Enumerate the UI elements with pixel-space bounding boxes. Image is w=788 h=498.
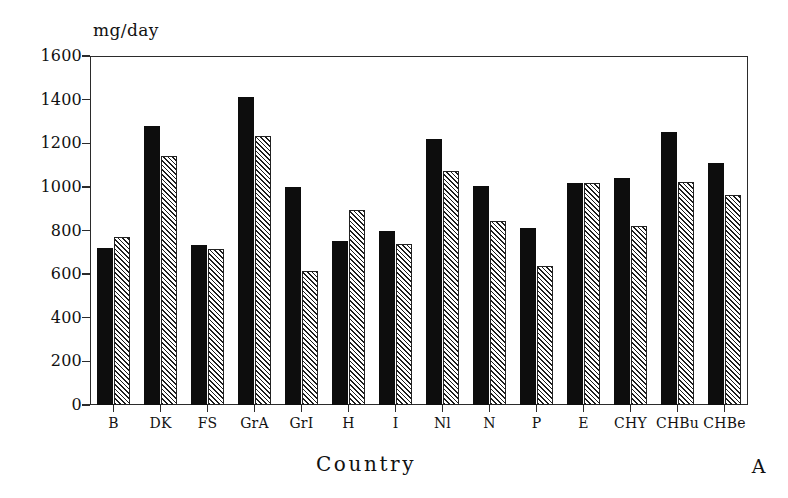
- y-tick-mark: [82, 273, 90, 274]
- y-tick-mark: [82, 143, 90, 144]
- bar-group: [654, 56, 701, 405]
- bars-layer: [90, 56, 748, 405]
- bar-group: [607, 56, 654, 405]
- bar-group: [560, 56, 607, 405]
- bar-CHBu-series-1: [661, 132, 677, 405]
- y-axis-unit-label: mg/day: [93, 20, 159, 40]
- x-tick-mark: [630, 405, 631, 412]
- bar-CHBu-series-2: [678, 182, 694, 405]
- y-tick-mark: [82, 317, 90, 318]
- bar-CHY-series-1: [614, 178, 630, 405]
- x-tick-mark: [254, 405, 255, 412]
- bar-I-series-2: [396, 244, 412, 405]
- bar-N-series-1: [473, 186, 489, 405]
- bar-P-series-2: [537, 266, 553, 405]
- x-tick-mark: [724, 405, 725, 412]
- y-tick-label: 1000: [22, 176, 82, 198]
- x-tick-mark: [489, 405, 490, 412]
- figure-panel-a: mg/day 16001400120010008006004002000 BDK…: [0, 0, 788, 498]
- x-tick-mark: [113, 405, 114, 412]
- y-tick-label: 600: [22, 263, 82, 285]
- bar-group: [325, 56, 372, 405]
- bar-group: [278, 56, 325, 405]
- y-tick-mark: [82, 55, 90, 56]
- bar-CHBe-series-1: [708, 163, 724, 405]
- bar-group: [184, 56, 231, 405]
- bar-B-series-2: [114, 237, 130, 405]
- x-tick-mark: [442, 405, 443, 412]
- bar-B-series-1: [97, 248, 113, 405]
- y-tick-mark: [82, 230, 90, 231]
- panel-letter: A: [752, 455, 766, 477]
- bar-E-series-1: [567, 183, 583, 405]
- bar-FS-series-1: [191, 245, 207, 405]
- x-tick-mark: [348, 405, 349, 412]
- x-axis-title: Country: [0, 452, 788, 476]
- y-tick-mark: [82, 186, 90, 187]
- y-tick-mark: [82, 99, 90, 100]
- x-tick-mark: [395, 405, 396, 412]
- bar-group: [701, 56, 748, 405]
- bar-FS-series-2: [208, 249, 224, 405]
- bar-Nl-series-1: [426, 139, 442, 405]
- bar-group: [372, 56, 419, 405]
- y-tick-label: 200: [22, 350, 82, 372]
- x-axis-title-text: Country: [316, 452, 416, 476]
- bar-E-series-2: [584, 183, 600, 405]
- x-tick-mark: [536, 405, 537, 412]
- x-tick-mark: [583, 405, 584, 412]
- bar-GrI-series-2: [302, 271, 318, 405]
- x-tick-mark: [677, 405, 678, 412]
- y-tick-mark: [82, 404, 90, 405]
- bar-GrI-series-1: [285, 187, 301, 405]
- x-tick-label-CHBe: CHBe: [685, 415, 765, 431]
- bar-N-series-2: [490, 221, 506, 405]
- x-tick-mark: [207, 405, 208, 412]
- bar-I-series-1: [379, 231, 395, 406]
- bar-GrA-series-1: [238, 97, 254, 405]
- bar-DK-series-1: [144, 126, 160, 405]
- bar-group: [466, 56, 513, 405]
- bar-Nl-series-2: [443, 171, 459, 405]
- bar-group: [513, 56, 560, 405]
- y-tick-label: 400: [22, 307, 82, 329]
- bar-CHBe-series-2: [725, 195, 741, 405]
- bar-H-series-2: [349, 210, 365, 405]
- y-tick-label: 1400: [22, 89, 82, 111]
- bar-GrA-series-2: [255, 136, 271, 405]
- bar-P-series-1: [520, 228, 536, 405]
- bar-group: [231, 56, 278, 405]
- y-tick-label: 0: [22, 394, 82, 416]
- y-tick-mark: [82, 361, 90, 362]
- y-tick-label: 1600: [22, 45, 82, 67]
- x-tick-mark: [301, 405, 302, 412]
- bar-group: [90, 56, 137, 405]
- y-tick-label: 800: [22, 220, 82, 242]
- bar-CHY-series-2: [631, 226, 647, 405]
- bar-H-series-1: [332, 241, 348, 405]
- bar-group: [137, 56, 184, 405]
- bar-group: [419, 56, 466, 405]
- bar-DK-series-2: [161, 156, 177, 405]
- y-tick-label: 1200: [22, 132, 82, 154]
- x-tick-mark: [160, 405, 161, 412]
